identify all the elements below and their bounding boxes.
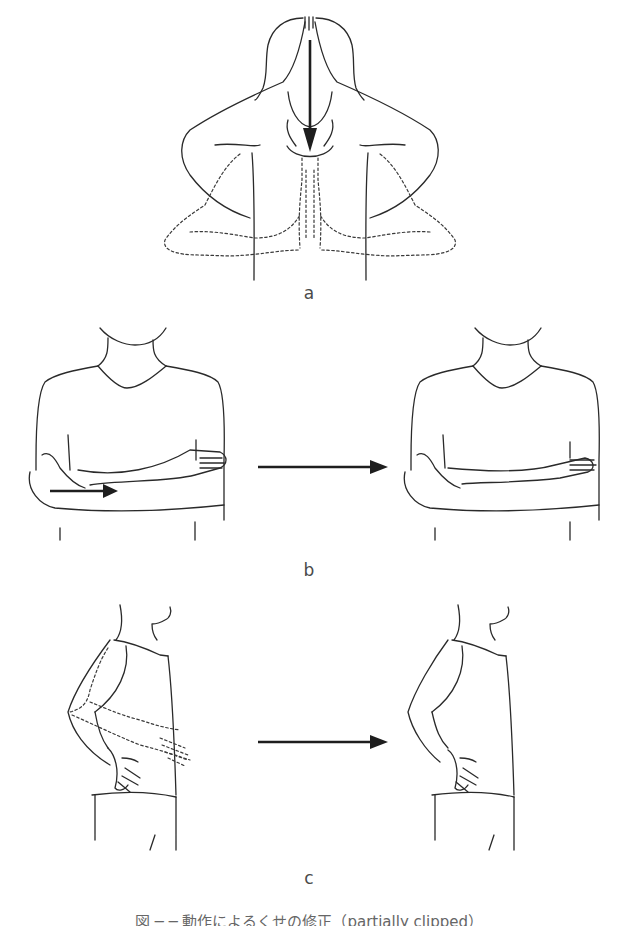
panel-b-label: b — [289, 560, 329, 580]
panel-c-start-figure — [68, 605, 190, 850]
figure-caption: 図 ─ ─ 動作によるくせの修正（partially clipped） — [0, 910, 618, 926]
panel-b-end-figure — [404, 328, 599, 540]
panel-a-illustration — [0, 0, 618, 300]
panel-b-transition-arrow-icon — [258, 460, 388, 474]
panel-c-illustration — [0, 590, 618, 880]
panel-c-transition-arrow-icon — [258, 735, 388, 749]
down-arrow-icon — [303, 40, 317, 152]
panel-c-label: c — [289, 868, 329, 888]
forearm-arrow-icon — [50, 484, 118, 498]
figure: a — [0, 0, 618, 926]
panel-b-start-figure — [29, 328, 226, 540]
panel-c-end-figure — [408, 605, 514, 850]
panel-b-illustration — [0, 300, 618, 590]
